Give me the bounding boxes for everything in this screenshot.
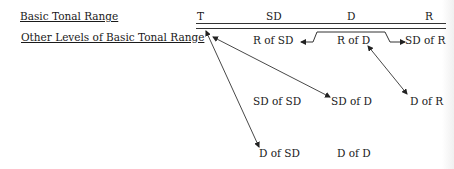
arrow-t-to-sd-of-d (213, 37, 330, 97)
bracket-r-of-d (301, 32, 405, 42)
arrow-t-to-d-of-sd (206, 31, 259, 147)
diagram-lines (0, 0, 454, 169)
arrow-r-of-d-to-d-of-r (368, 46, 407, 94)
